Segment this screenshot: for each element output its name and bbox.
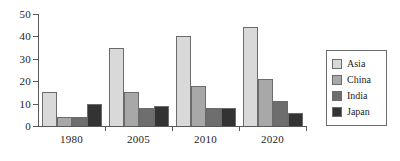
y-tick-label: 50 — [20, 8, 31, 20]
bar-japan-2020 — [288, 113, 303, 126]
x-tick-label-1980: 1980 — [60, 133, 83, 145]
bar-japan-2010 — [221, 108, 236, 126]
y-tick-label: 40 — [20, 30, 31, 42]
legend-item-china[interactable]: China — [332, 73, 381, 87]
legend-swatch-icon — [332, 107, 342, 117]
bar-asia-1980 — [42, 92, 57, 126]
bar-china-2020 — [258, 79, 273, 126]
bar-group-bars — [38, 14, 105, 126]
bar-group-bars — [105, 14, 172, 126]
bar-china-2005 — [124, 92, 139, 126]
x-tick-label-2005: 2005 — [127, 133, 150, 145]
legend-item-label: China — [347, 75, 371, 85]
legend-swatch-icon — [332, 91, 342, 101]
x-tick-mark — [172, 126, 173, 131]
legend-item-label: Japan — [347, 107, 370, 117]
y-tick-label: 30 — [20, 53, 31, 65]
bar-asia-2005 — [109, 48, 124, 126]
legend-item-india[interactable]: India — [332, 89, 381, 103]
x-tick-label-2010: 2010 — [194, 133, 217, 145]
bar-india-2005 — [139, 108, 154, 126]
x-tick-mark — [239, 126, 240, 131]
bar-group-2020 — [239, 14, 306, 126]
bar-india-2010 — [206, 108, 221, 126]
y-tick-label: 20 — [20, 75, 31, 87]
bar-japan-1980 — [87, 104, 102, 126]
legend-item-label: Asia — [347, 59, 365, 69]
y-tick-label: 0 — [25, 120, 31, 132]
x-tick-label-2020: 2020 — [261, 133, 284, 145]
legend-swatch-icon — [332, 75, 342, 85]
bar-group-bars — [239, 14, 306, 126]
bar-group-2010 — [172, 14, 239, 126]
bar-india-2020 — [273, 101, 288, 126]
legend-swatch-icon — [332, 59, 342, 69]
bar-group-2005 — [105, 14, 172, 126]
legend-item-asia[interactable]: Asia — [332, 57, 381, 71]
bar-china-2010 — [191, 86, 206, 126]
bar-chart-figure: 01020304050 1980200520102020 AsiaChinaIn… — [0, 0, 400, 161]
x-tick-mark-end — [306, 126, 307, 131]
plot-area: 01020304050 1980200520102020 — [38, 14, 306, 126]
legend-item-japan[interactable]: Japan — [332, 105, 381, 119]
x-tick-mark — [105, 126, 106, 131]
legend-item-label: India — [347, 91, 368, 101]
y-tick-mark — [33, 126, 38, 127]
bar-group-1980 — [38, 14, 105, 126]
y-tick-label: 10 — [20, 98, 31, 110]
bar-india-1980 — [72, 117, 87, 126]
bar-asia-2010 — [176, 36, 191, 126]
bar-group-bars — [172, 14, 239, 126]
bar-japan-2005 — [154, 106, 169, 126]
bar-china-1980 — [57, 117, 72, 126]
bar-asia-2020 — [243, 27, 258, 126]
chart-legend: AsiaChinaIndiaJapan — [326, 50, 387, 126]
